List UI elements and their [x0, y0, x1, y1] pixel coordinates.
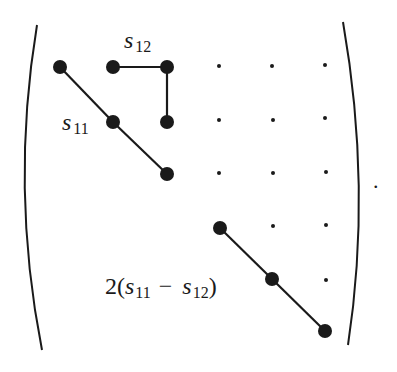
- zero-entry-dot: [323, 63, 327, 67]
- nonzero-entry-node: [160, 115, 174, 129]
- zero-entry-dot: [323, 116, 327, 120]
- zero-entry-dot: [217, 171, 221, 175]
- zero-entry-dot: [324, 170, 328, 174]
- compliance-matrix-diagram: s12 s11 2(s11−s12) .: [0, 0, 397, 372]
- right-parenthesis: [343, 22, 359, 345]
- nonzero-entry-node: [318, 324, 332, 338]
- zero-entry-dot: [217, 118, 221, 122]
- label-s12: s12: [124, 27, 151, 55]
- connection-line: [113, 122, 167, 174]
- label-shear-term: 2(s11−s12): [105, 273, 217, 301]
- label-s11: s11: [62, 109, 89, 137]
- connection-line: [272, 279, 325, 331]
- nonzero-entry-node: [106, 115, 120, 129]
- nonzero-entry-node: [106, 60, 120, 74]
- zero-entry-dot: [217, 64, 221, 68]
- zero-entry-dot: [270, 64, 274, 68]
- nonzero-entry-node: [213, 221, 227, 235]
- nonzero-entry-node: [160, 167, 174, 181]
- zero-entry-dot: [271, 118, 275, 122]
- zero-entries: [217, 63, 328, 282]
- zero-entry-dot: [324, 223, 328, 227]
- zero-entry-dot: [271, 224, 275, 228]
- nonzero-entry-node: [160, 60, 174, 74]
- zero-entry-dot: [324, 278, 328, 282]
- nonzero-entry-node: [53, 60, 67, 74]
- zero-entry-dot: [271, 171, 275, 175]
- left-parenthesis: [25, 25, 42, 350]
- connection-line: [220, 228, 272, 279]
- nonzero-entry-node: [265, 272, 279, 286]
- trailing-period: .: [373, 168, 379, 193]
